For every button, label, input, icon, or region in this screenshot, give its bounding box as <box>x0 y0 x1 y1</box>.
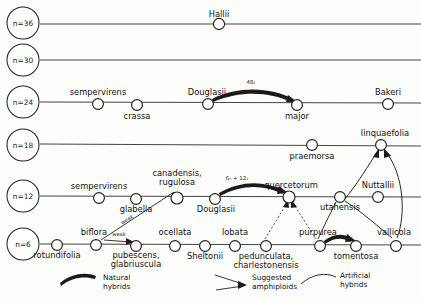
node-circle-linquaefolia[interactable] <box>376 140 387 151</box>
legend-amphiploids-line1: Suggested <box>252 273 292 282</box>
taxon-label-praemorsa: praemorsa <box>290 151 335 161</box>
node-lobata[interactable]: lobata <box>222 227 248 251</box>
taxon-label-sempervirens-12: sempervirens <box>71 181 127 191</box>
node-pubescens-glabriuscula[interactable]: pubescens, glabriuscula <box>111 241 161 269</box>
ploidy-label-n18: n=18 <box>13 141 34 150</box>
legend-artificial-hybrids-line1: Artificial <box>340 271 370 280</box>
taxon-label-rotundifolia: rotundifolia <box>33 250 80 260</box>
node-ocellata[interactable]: ocellata <box>159 227 192 251</box>
node-sheltonii[interactable]: Sheltonii <box>187 241 223 261</box>
taxon-label-purpurea: purpurea <box>299 227 337 237</box>
ploidy-label-n24: n=24 <box>13 98 34 107</box>
taxon-label-biflora: biflora <box>81 227 107 237</box>
node-circle-tomentosa[interactable] <box>351 241 362 252</box>
legend-amphiploids-line2: amphiploids <box>252 282 297 291</box>
taxon-label-lobata: lobata <box>222 227 248 237</box>
node-circle-biflora[interactable] <box>91 240 102 251</box>
node-circle-canadensis-rugulosa[interactable] <box>171 192 183 204</box>
node-hallii[interactable]: Hallii <box>209 9 230 30</box>
taxon-label-vallicola: vallicola <box>377 227 411 237</box>
node-circle-bakeri[interactable] <box>383 99 394 110</box>
node-circle-quercetorum[interactable] <box>283 191 295 203</box>
taxon-label-sempervirens-24: sempervirens <box>70 87 126 97</box>
node-rotundifolia[interactable]: rotundifolia <box>33 240 80 260</box>
ploidy-label-n12: n=12 <box>13 192 33 201</box>
ploidy-label-n36: n=36 <box>13 19 34 28</box>
taxon-label-major: major <box>285 111 310 121</box>
node-linquaefolia[interactable]: linquaefolia <box>361 128 409 150</box>
node-tomentosa[interactable]: tomentosa <box>334 241 379 261</box>
legend-artificial-hybrid-icon <box>301 274 336 284</box>
artificial-hybrid-nuttallii-linquaefolia <box>344 152 377 200</box>
taxon-label-rugulosa: rugulosa <box>159 177 195 187</box>
node-quercetorum[interactable]: quercetorum <box>264 180 318 203</box>
node-circle-crassa[interactable] <box>132 100 143 111</box>
annotation-weak-horizontal: weak <box>112 231 126 237</box>
node-circle-vallicola[interactable] <box>391 241 402 252</box>
taxon-label-utahensis: utahensis <box>320 202 360 212</box>
node-vallicola[interactable]: vallicola <box>377 227 411 251</box>
annotation-48: 48₁ <box>246 79 255 85</box>
taxon-label-glabella: glabella <box>120 204 153 214</box>
taxon-label-nuttallii: Nuttallii <box>362 180 394 190</box>
taxon-label-charlestonensis: charlestonensis <box>234 260 299 270</box>
node-circle-major[interactable] <box>292 100 303 111</box>
node-canadensis-rugulosa[interactable]: canadensis, rugulosa <box>152 168 201 204</box>
node-sempervirens-12[interactable]: sempervirens <box>71 181 127 203</box>
node-circle-sempervirens-24[interactable] <box>93 99 104 110</box>
legend-artificial-hybrids-line2: hybrids <box>340 280 368 289</box>
node-praemorsa[interactable]: praemorsa <box>290 140 335 161</box>
node-circle-purpurea[interactable] <box>315 241 326 252</box>
taxon-label-sheltonii: Sheltonii <box>187 251 223 261</box>
legend-natural-hybrids-line1: Natural <box>103 273 130 282</box>
node-circle-douglasii-24[interactable] <box>203 99 214 110</box>
node-crassa[interactable]: crassa <box>124 100 151 121</box>
legend-natural-hybrid-icon <box>60 274 96 286</box>
node-circle-nuttallii[interactable] <box>373 192 384 203</box>
node-utahensis[interactable]: utahensis <box>320 192 360 212</box>
taxon-label-bakeri: Bakeri <box>375 87 401 97</box>
node-circle-douglasii-12[interactable] <box>210 194 221 205</box>
level-line-n18 <box>40 144 421 146</box>
legend-amphiploid-arrowhead <box>238 281 247 289</box>
legend-natural-hybrids-line2: hybrids <box>103 282 131 291</box>
ploidy-label-n6: n=6 <box>15 240 31 249</box>
node-circle-glabella[interactable] <box>131 194 142 205</box>
taxon-label-douglasii-12: Douglasii <box>197 204 235 214</box>
arrowhead-linquaefolia-right <box>384 148 391 158</box>
node-circle-utahensis[interactable] <box>335 192 346 203</box>
node-sempervirens-24[interactable]: sempervirens <box>70 87 126 109</box>
node-circle-hallii[interactable] <box>213 18 224 29</box>
node-circle-rotundifolia[interactable] <box>52 240 63 251</box>
node-circle-lobata[interactable] <box>230 241 241 252</box>
taxon-label-douglasii-24: Douglasii <box>188 87 226 97</box>
taxon-label-ocellata: ocellata <box>159 227 192 237</box>
amphiploid-pedunculata-quercetorum <box>265 203 287 239</box>
taxon-label-hallii: Hallii <box>209 9 230 19</box>
diagram-canvas: n=36 n=30 n=24 n=18 n=12 n=6 <box>0 0 421 302</box>
taxon-label-tomentosa: tomentosa <box>334 251 379 261</box>
node-circle-pedunculata-charlestonensis[interactable] <box>261 241 272 252</box>
taxon-label-crassa: crassa <box>124 111 151 121</box>
artificial-hybrid-vallicola-linquaefolia <box>386 152 402 238</box>
ploidy-hybridization-diagram: n=36 n=30 n=24 n=18 n=12 n=6 <box>0 0 421 302</box>
annotation-weak-diagonal: weak <box>120 213 135 225</box>
node-circle-praemorsa[interactable] <box>307 140 318 151</box>
ploidy-label-n30: n=30 <box>13 56 34 65</box>
taxon-label-glabriuscula: glabriuscula <box>111 259 161 269</box>
node-circle-sempervirens-12[interactable] <box>94 193 105 204</box>
node-circle-sheltonii[interactable] <box>200 241 211 252</box>
taxon-label-quercetorum: quercetorum <box>264 180 318 190</box>
annotation-6n-12l: 6ₙ + 12₁ <box>226 175 249 181</box>
node-bakeri[interactable]: Bakeri <box>375 87 401 109</box>
taxon-label-linquaefolia: linquaefolia <box>361 128 409 138</box>
legend: Natural hybrids Suggested amphiploids Ar… <box>60 271 370 291</box>
ploidy-axis: n=36 n=30 n=24 n=18 n=12 n=6 <box>7 7 39 260</box>
node-nuttallii[interactable]: Nuttallii <box>362 180 394 202</box>
node-circle-ocellata[interactable] <box>170 241 181 252</box>
